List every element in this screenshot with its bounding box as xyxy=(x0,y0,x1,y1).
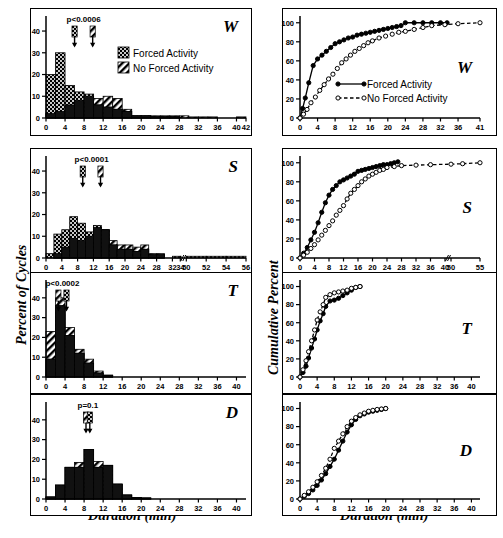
y-axis-label-left: Percent of Cycles xyxy=(14,245,30,345)
panel-cum-S xyxy=(282,148,497,276)
panel-cum-D xyxy=(282,394,497,516)
panel-cum-T xyxy=(282,272,497,394)
y-axis-label-right: Cumulative Percent xyxy=(266,260,282,375)
panel-cum-W xyxy=(282,8,497,136)
panel-hist-S xyxy=(30,148,252,276)
panel-hist-W xyxy=(30,8,252,136)
panel-hist-D xyxy=(30,394,252,516)
figure-root: Percent of Cycles Cumulative Percent Dur… xyxy=(0,0,503,538)
panel-hist-T xyxy=(30,272,252,394)
